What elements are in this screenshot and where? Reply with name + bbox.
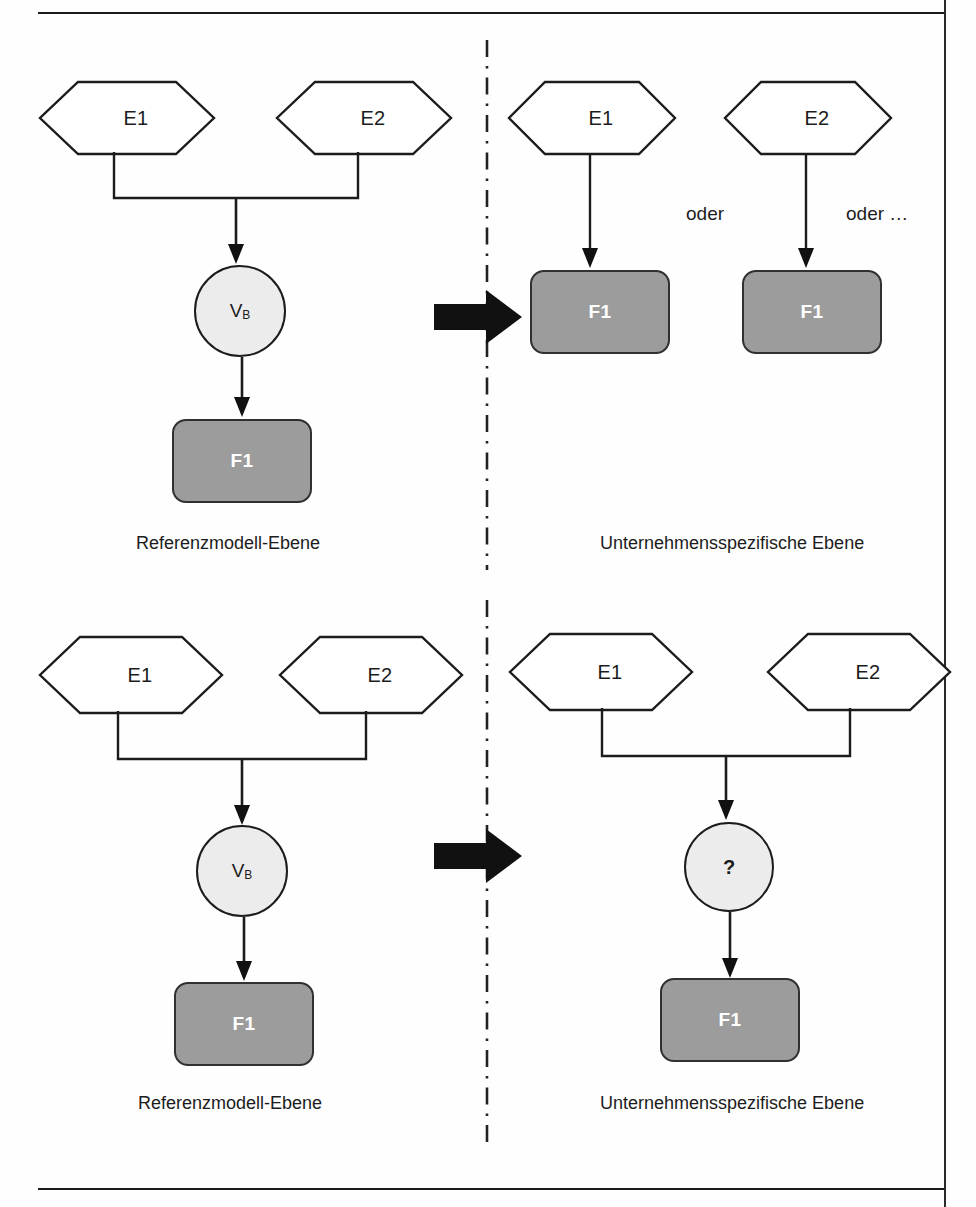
frame-rule-top: [38, 12, 945, 14]
frame-rule-bottom: [38, 1188, 945, 1190]
function-label: F1: [233, 1013, 256, 1035]
hexagon-entity-e1-top-left[interactable]: E1: [38, 80, 216, 156]
block-arrow-right-bottom: [434, 827, 524, 885]
hexagon-entity-e2-bottom-left[interactable]: E2: [278, 635, 464, 715]
operator-subscript: B: [242, 308, 250, 322]
operator-label: V: [230, 300, 243, 322]
block-arrow-right-top: [434, 288, 524, 346]
hexagon-entity-e1-bottom-right[interactable]: E1: [508, 632, 694, 712]
label-oder-1: oder: [686, 203, 724, 225]
function-box-f1-bottom-left[interactable]: F1: [174, 982, 314, 1066]
operator-circle-vb-bottom-left[interactable]: VB: [196, 825, 288, 917]
diagram-page: Abbildung: Konfiguration E1 E2: [0, 0, 976, 1207]
function-label: F1: [589, 301, 612, 323]
connector-operator-to-function-bottom-right: [720, 912, 740, 980]
connector-e2-to-f1-top-right: [796, 154, 816, 270]
hexagon-entity-e1-bottom-left[interactable]: E1: [38, 635, 224, 715]
hexagon-entity-e2-top-left[interactable]: E2: [275, 80, 453, 156]
caption-referenzmodell-ebene-bottom: Referenzmodell-Ebene: [138, 1093, 322, 1114]
connector-entities-to-operator-bottom-right: [598, 708, 858, 828]
operator-label: V: [232, 860, 245, 882]
caption-unternehmensspezifische-ebene-bottom: Unternehmensspezifische Ebene: [600, 1093, 864, 1114]
frame-rule-right: [944, 0, 946, 1207]
connector-operator-to-function-top-left: [232, 357, 252, 419]
connector-operator-to-function-bottom-left: [234, 917, 254, 983]
operator-label: ?: [723, 856, 735, 879]
operator-subscript: B: [244, 868, 252, 882]
label-oder-2: oder …: [846, 203, 908, 225]
operator-circle-vb-top-left[interactable]: VB: [194, 265, 286, 357]
function-box-f1-top-right-variant2[interactable]: F1: [742, 270, 882, 354]
function-box-f1-bottom-right[interactable]: F1: [660, 978, 800, 1062]
hexagon-entity-e2-bottom-right[interactable]: E2: [766, 632, 952, 712]
connector-entities-to-operator-bottom-left: [114, 711, 378, 831]
connector-entities-to-operator-top-left: [110, 152, 370, 272]
function-box-f1-top-left[interactable]: F1: [172, 419, 312, 503]
operator-circle-question-bottom-right[interactable]: ?: [684, 822, 774, 912]
caption-referenzmodell-ebene-top: Referenzmodell-Ebene: [136, 533, 320, 554]
hexagon-entity-e2-top-right[interactable]: E2: [723, 80, 893, 156]
hexagon-entity-e1-top-right[interactable]: E1: [507, 80, 677, 156]
connector-e1-to-f1-top-right: [580, 154, 600, 270]
function-label: F1: [719, 1009, 742, 1031]
function-label: F1: [231, 450, 254, 472]
function-label: F1: [801, 301, 824, 323]
caption-unternehmensspezifische-ebene-top: Unternehmensspezifische Ebene: [600, 533, 864, 554]
function-box-f1-top-right-variant1[interactable]: F1: [530, 270, 670, 354]
